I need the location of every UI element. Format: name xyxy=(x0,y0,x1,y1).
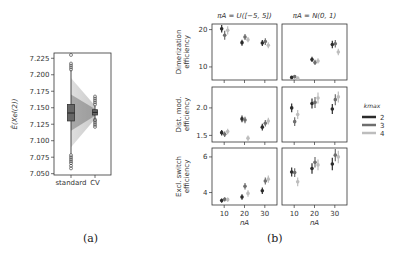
y-tick-label: 7.175 xyxy=(29,88,49,96)
data-point xyxy=(316,96,320,100)
y-tick-label: 6 xyxy=(203,153,208,161)
x-tick-label: 20 xyxy=(310,210,319,218)
subplot-frame xyxy=(282,87,347,142)
figure: 7.0507.0757.1007.1257.1507.1757.2007.225… xyxy=(0,0,415,258)
data-point xyxy=(290,170,294,174)
data-point xyxy=(293,171,297,175)
y-tick-label: 1.5 xyxy=(196,132,207,140)
data-point xyxy=(264,122,268,126)
row-label: Dist. mod. xyxy=(175,97,183,133)
y-tick-label: 7.150 xyxy=(29,104,49,112)
x-tick-label: CV xyxy=(90,179,100,187)
outlier-marker xyxy=(94,95,97,98)
y-tick-label: 7.125 xyxy=(29,121,49,129)
outlier-marker xyxy=(70,53,73,56)
y-tick-label: 4 xyxy=(203,189,208,197)
data-point xyxy=(267,43,271,47)
data-point xyxy=(226,198,230,202)
data-point xyxy=(296,180,300,184)
y-tick-label: 2.0 xyxy=(196,104,207,112)
data-point xyxy=(313,101,317,105)
y-tick-label: 20 xyxy=(199,26,208,34)
data-point xyxy=(331,107,335,111)
data-point xyxy=(337,155,341,159)
data-point xyxy=(331,162,335,166)
data-point xyxy=(240,195,244,199)
data-point xyxy=(316,59,320,63)
subplot-frame xyxy=(212,148,277,205)
data-point xyxy=(290,76,294,80)
legend-label: 4 xyxy=(380,130,385,138)
data-point xyxy=(267,177,271,181)
row-label: efficiency xyxy=(183,98,191,132)
caption-b: (b) xyxy=(267,232,283,245)
outlier-marker xyxy=(70,62,73,65)
x-axis-label: nA xyxy=(240,219,249,227)
data-point xyxy=(264,40,268,44)
data-point xyxy=(246,192,250,196)
data-point xyxy=(243,35,247,39)
y-tick-label: 7.100 xyxy=(29,137,49,145)
column-title: πA = U([−5, 5]) xyxy=(217,12,272,20)
data-point xyxy=(316,163,320,167)
legend-label: 3 xyxy=(380,122,384,130)
y-axis-label: Ê(Xel(2)) xyxy=(10,98,19,129)
x-tick-label: 30 xyxy=(260,210,269,218)
data-point xyxy=(310,58,314,62)
data-point xyxy=(246,136,250,140)
data-point xyxy=(334,153,338,157)
outlier-marker xyxy=(70,154,73,157)
y-tick-label: 7.200 xyxy=(29,71,49,79)
data-point xyxy=(334,42,338,46)
data-point xyxy=(246,38,250,42)
data-point xyxy=(226,130,230,134)
data-point xyxy=(226,29,230,33)
row-label: efficiency xyxy=(183,35,191,69)
data-point xyxy=(290,106,294,110)
data-point xyxy=(243,118,247,122)
x-tick-label: standard xyxy=(55,179,86,187)
caption-a: (a) xyxy=(83,232,98,245)
data-point xyxy=(223,133,227,137)
data-point xyxy=(334,98,338,102)
row-label: Dimerization xyxy=(175,30,183,75)
data-point xyxy=(310,167,314,171)
x-axis-label: nA xyxy=(310,219,319,227)
data-point xyxy=(264,179,268,183)
data-point xyxy=(337,50,341,54)
x-tick-label: 20 xyxy=(240,210,249,218)
data-point xyxy=(240,41,244,45)
data-point xyxy=(220,27,224,31)
data-point xyxy=(223,33,227,37)
x-tick-label: 10 xyxy=(220,210,229,218)
row-label: Excl. switch xyxy=(175,156,183,197)
data-point xyxy=(261,189,265,193)
data-point xyxy=(313,160,317,164)
data-point xyxy=(293,120,297,124)
row-label: efficiency xyxy=(183,160,191,194)
legend-title: kmax xyxy=(364,102,381,109)
data-point xyxy=(267,119,271,123)
y-tick-label: 10 xyxy=(199,63,208,71)
data-point xyxy=(296,76,300,80)
data-point xyxy=(243,184,247,188)
data-point xyxy=(331,43,335,47)
column-title: πA = N(0, 1) xyxy=(293,12,337,20)
data-point xyxy=(337,95,341,99)
x-tick-label: 30 xyxy=(330,210,339,218)
y-tick-label: 7.050 xyxy=(29,170,49,178)
data-point xyxy=(261,125,265,129)
y-tick-label: 7.075 xyxy=(29,154,49,162)
y-tick-label: 7.225 xyxy=(29,55,49,63)
panel-b-errorbar-grid: πA = U([−5, 5])πA = N(0, 1)Dimerizatione… xyxy=(175,12,385,227)
data-point xyxy=(296,113,300,117)
legend-label: 2 xyxy=(380,114,384,122)
x-tick-label: 10 xyxy=(290,210,299,218)
panel-a-boxplot: 7.0507.0757.1007.1257.1507.1757.2007.225… xyxy=(10,53,111,187)
